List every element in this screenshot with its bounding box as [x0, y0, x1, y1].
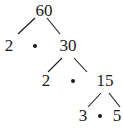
node-2-second: 2	[42, 72, 51, 89]
node-3: 3	[79, 107, 88, 124]
edge-60-2	[18, 18, 35, 34]
multiply-dot-icon	[33, 44, 37, 48]
edge-15-3	[88, 93, 101, 107]
node-5: 5	[113, 107, 122, 124]
node-15: 15	[97, 72, 114, 89]
edge-30-15	[74, 58, 87, 72]
multiply-dot-icon	[98, 114, 102, 118]
node-30: 30	[60, 37, 77, 54]
node-2-first: 2	[5, 37, 14, 54]
factor-tree: 60 2 30 2 15 3 5	[0, 0, 123, 128]
tree-edges	[0, 0, 123, 128]
node-60: 60	[36, 2, 53, 19]
multiply-dot-icon	[71, 79, 75, 83]
edge-60-30	[47, 18, 60, 34]
